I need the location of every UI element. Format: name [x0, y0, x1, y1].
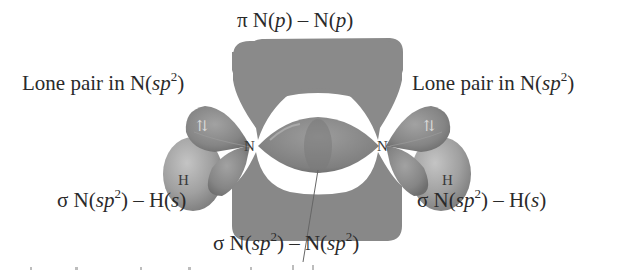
sigma-nn-label: σ N(sp2) – N(sp2) [213, 231, 359, 255]
lone-pair-left-label: Lone pair in N(sp2) [22, 71, 184, 95]
orbital-diagram: N N H H ⇅ ⇅ [0, 0, 623, 270]
electron-pair-right-icon: ⇅ [423, 118, 436, 134]
lone-pair-right-label: Lone pair in N(sp2) [412, 71, 574, 95]
sigma-nh-right-label: σ N(sp2) – H(s) [417, 188, 546, 212]
electron-pair-left-icon: ⇅ [196, 118, 209, 134]
pi-bond-label: π N(p) – N(p) [237, 8, 353, 32]
atom-n-left: N [244, 138, 255, 154]
atom-h-left: H [178, 172, 189, 188]
sigma-nh-left-label: σ N(sp2) – H(s) [57, 188, 186, 212]
atom-n-right: N [377, 138, 388, 154]
atom-h-right: H [442, 172, 453, 188]
sigma-nn-node [304, 119, 332, 173]
cutoff-next-line [0, 262, 623, 270]
